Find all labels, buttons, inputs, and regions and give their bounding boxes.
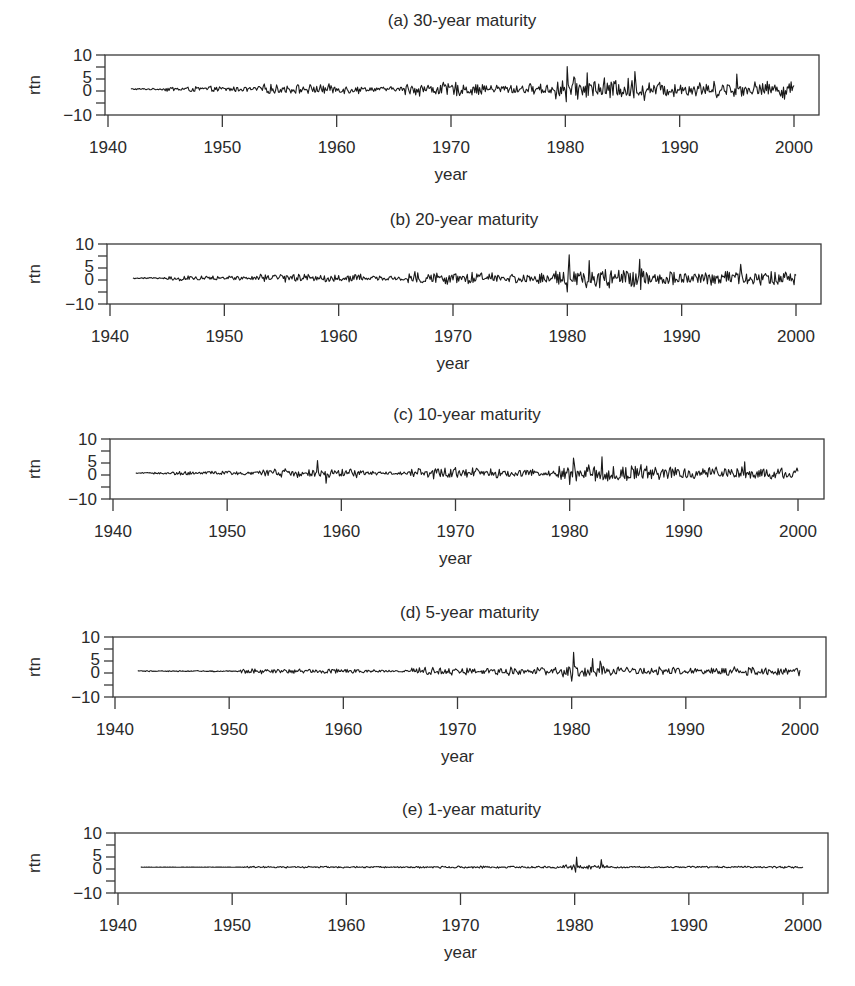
x-tick-label: 1980 [548,327,586,346]
return-series-line [138,652,800,681]
y-tick-label: −10 [73,884,102,903]
x-tick-label: 1990 [661,138,699,157]
y-tick-label: −10 [68,490,97,509]
x-axis-label: year [439,549,472,568]
y-axis-label: rtn [25,657,44,677]
plot-frame [107,244,821,304]
x-tick-label: 1960 [322,522,360,541]
y-tick-label: −10 [71,688,100,707]
y-tick-label: −10 [65,295,94,314]
x-tick-label: 1990 [667,720,705,739]
panel-title: (b) 20-year maturity [390,210,539,229]
panel-title: (e) 1-year maturity [402,800,541,819]
panel-title: (c) 10-year maturity [393,405,541,424]
y-tick-label: 0 [91,663,100,682]
y-tick-label: 10 [73,46,92,65]
y-tick-label: 10 [83,824,102,843]
x-tick-label: 2000 [779,522,817,541]
return-series-line [133,255,796,292]
x-tick-label: 1940 [96,720,134,739]
x-tick-label: 1940 [89,138,127,157]
panel-b: (b) 20-year maturity1050−10rtn1940195019… [25,210,821,373]
x-tick-label: 1950 [213,916,251,935]
x-tick-label: 1990 [663,327,701,346]
x-tick-label: 1960 [324,720,362,739]
x-tick-label: 1970 [432,138,470,157]
y-axis-label: rtn [25,459,44,479]
panel-title: (d) 5-year maturity [400,603,539,622]
x-tick-label: 1940 [91,327,129,346]
x-tick-label: 1950 [203,138,241,157]
y-axis-label: rtn [25,264,44,284]
x-tick-label: 1980 [556,916,594,935]
x-tick-label: 1990 [670,916,708,935]
return-series-line [136,457,798,485]
y-tick-label: 10 [81,628,100,647]
return-series-line [141,857,803,872]
y-axis-label: rtn [25,75,44,95]
x-tick-label: 1970 [442,916,480,935]
x-tick-label: 1940 [94,522,132,541]
x-tick-label: 1990 [665,522,703,541]
y-axis-label: rtn [25,853,44,873]
y-tick-label: 0 [88,465,97,484]
x-tick-label: 1970 [434,327,472,346]
x-axis-label: year [444,943,477,962]
x-tick-label: 1950 [210,720,248,739]
x-tick-label: 2000 [777,327,815,346]
plot-frame [113,637,826,697]
plot-frame [105,55,819,115]
panel-c: (c) 10-year maturity1050−10rtn1940195019… [25,405,824,568]
x-tick-label: 2000 [775,138,813,157]
y-tick-label: 0 [85,270,94,289]
x-tick-label: 2000 [781,720,819,739]
panel-a: (a) 30-year maturity1050−10rtn1940195019… [25,11,819,184]
plot-frame [115,833,828,893]
x-tick-label: 1970 [437,522,475,541]
y-tick-label: 10 [78,430,97,449]
panel-d: (d) 5-year maturity1050−10rtn19401950196… [25,603,826,766]
y-tick-label: 0 [93,859,102,878]
x-tick-label: 1960 [327,916,365,935]
y-tick-label: 0 [83,81,92,100]
x-tick-label: 1970 [439,720,477,739]
x-axis-label: year [436,354,469,373]
x-tick-label: 1980 [553,720,591,739]
x-tick-label: 1980 [551,522,589,541]
x-tick-label: 1960 [320,327,358,346]
panel-e: (e) 1-year maturity1050−10rtn19401950196… [25,800,828,962]
x-tick-label: 1940 [99,916,137,935]
panel-title: (a) 30-year maturity [388,11,537,30]
x-tick-label: 1950 [205,327,243,346]
x-tick-label: 1980 [546,138,584,157]
x-tick-label: 2000 [784,916,822,935]
x-axis-label: year [434,165,467,184]
y-tick-label: −10 [63,106,92,125]
x-axis-label: year [441,747,474,766]
figure-canvas: (a) 30-year maturity1050−10rtn1940195019… [0,0,855,986]
return-series-line [131,67,794,102]
y-tick-label: 10 [75,235,94,254]
x-tick-label: 1960 [318,138,356,157]
x-tick-label: 1950 [208,522,246,541]
